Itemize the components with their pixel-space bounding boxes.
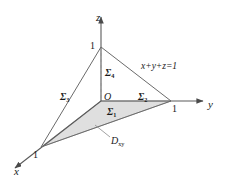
x-axis-tick-1: 1 [33,150,38,160]
y-axis-label: y [208,99,213,110]
y-axis-tick-1: 1 [172,104,177,114]
x-axis-label: x [14,166,19,177]
d-region-subscript: xy [118,140,124,147]
sigma-2-subscript: 2 [144,96,147,103]
plane-equation-label: x+y+z=1 [141,62,177,72]
sigma-3-label: Σ3 [60,92,69,103]
d-region-label: Dxy [111,136,124,147]
d-region-leader-line [95,125,110,137]
sigma-4-subscript: 4 [111,72,114,79]
sigma-4-label: Σ4 [105,68,114,79]
origin-label: O [104,92,111,102]
z-axis-tick-1: 1 [90,41,95,51]
figure-canvas: z y x 1 1 1 O x+y+z=1 Σ4 Σ3 Σ2 Σ1 Dxy [0,0,226,186]
z-axis-label: z [96,12,100,23]
sigma-3-subscript: 3 [66,96,69,103]
sigma-1-label: Σ1 [107,107,116,118]
sigma-2-label: Σ2 [138,92,147,103]
x-axis [15,101,101,168]
sigma-1-subscript: 1 [113,111,116,118]
